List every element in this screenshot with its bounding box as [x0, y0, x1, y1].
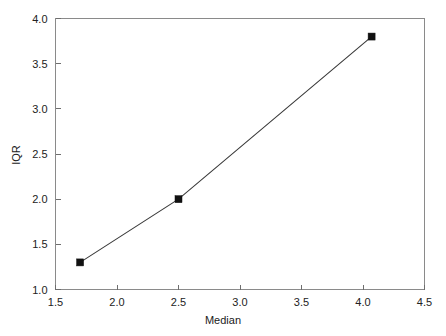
- x-tick-label: 2.0: [109, 296, 124, 308]
- x-tick-label: 4.0: [355, 296, 370, 308]
- y-tick-label: 3.5: [32, 58, 47, 70]
- data-point-marker: [175, 196, 182, 203]
- x-tick-label: 4.5: [417, 296, 432, 308]
- data-point-marker: [368, 33, 375, 40]
- chart-container: 1.52.02.53.03.54.04.5 1.01.52.02.53.03.5…: [0, 0, 446, 336]
- x-axis-title: Median: [205, 314, 241, 326]
- y-tick-label: 2.0: [32, 193, 47, 205]
- x-tick-label: 3.0: [232, 296, 247, 308]
- chart-background: [0, 0, 446, 336]
- y-tick-label: 1.5: [32, 238, 47, 250]
- y-tick-label: 3.0: [32, 103, 47, 115]
- y-tick-label: 4.0: [32, 13, 47, 25]
- x-tick-label: 2.5: [171, 296, 186, 308]
- y-tick-label: 2.5: [32, 148, 47, 160]
- x-tick-label: 3.5: [294, 296, 309, 308]
- line-chart: 1.52.02.53.03.54.04.5 1.01.52.02.53.03.5…: [0, 0, 446, 336]
- y-tick-label: 1.0: [32, 284, 47, 296]
- data-point-marker: [77, 259, 84, 266]
- y-axis-title: IQR: [10, 145, 22, 165]
- x-tick-label: 1.5: [48, 296, 63, 308]
